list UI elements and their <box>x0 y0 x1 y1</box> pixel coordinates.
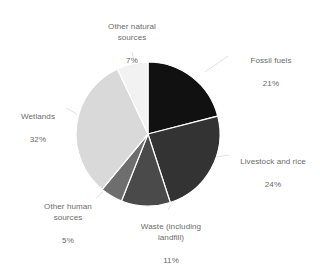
pie-label-livestock-and-rice-name: Livestock and rice <box>226 156 320 167</box>
pie-label-fossil-fuels-name: Fossil fuels <box>228 55 314 66</box>
pie-label-livestock-and-rice-value: 24% <box>226 179 320 190</box>
leader-line-waste <box>168 203 172 210</box>
pie-label-other-natural-sources-value: 7% <box>88 55 176 66</box>
pie-label-fossil-fuels-value: 21% <box>228 78 314 89</box>
pie-label-wetlands: Wetlands 32% <box>6 100 70 156</box>
pie-slices-group <box>76 62 220 206</box>
pie-label-other-human-sources-value: 5% <box>24 235 112 246</box>
pie-label-wetlands-value: 32% <box>6 134 70 145</box>
pie-label-livestock-and-rice: Livestock and rice 24% <box>226 145 320 201</box>
pie-label-waste-name: Waste (including landfill) <box>125 221 217 243</box>
pie-label-waste: Waste (including landfill) 11% <box>125 210 217 267</box>
pie-label-other-natural-sources-name: Other natural sources <box>88 21 176 43</box>
pie-label-other-natural-sources: Other natural sources 7% <box>88 10 176 77</box>
pie-label-other-human-sources-name: Other human sources <box>24 201 112 223</box>
pie-label-wetlands-name: Wetlands <box>6 111 70 122</box>
leader-line-fossil-fuels <box>205 56 228 72</box>
pie-label-waste-value: 11% <box>125 255 217 266</box>
pie-label-other-human-sources: Other human sources 5% <box>24 190 112 257</box>
pie-label-fossil-fuels: Fossil fuels 21% <box>228 44 314 100</box>
